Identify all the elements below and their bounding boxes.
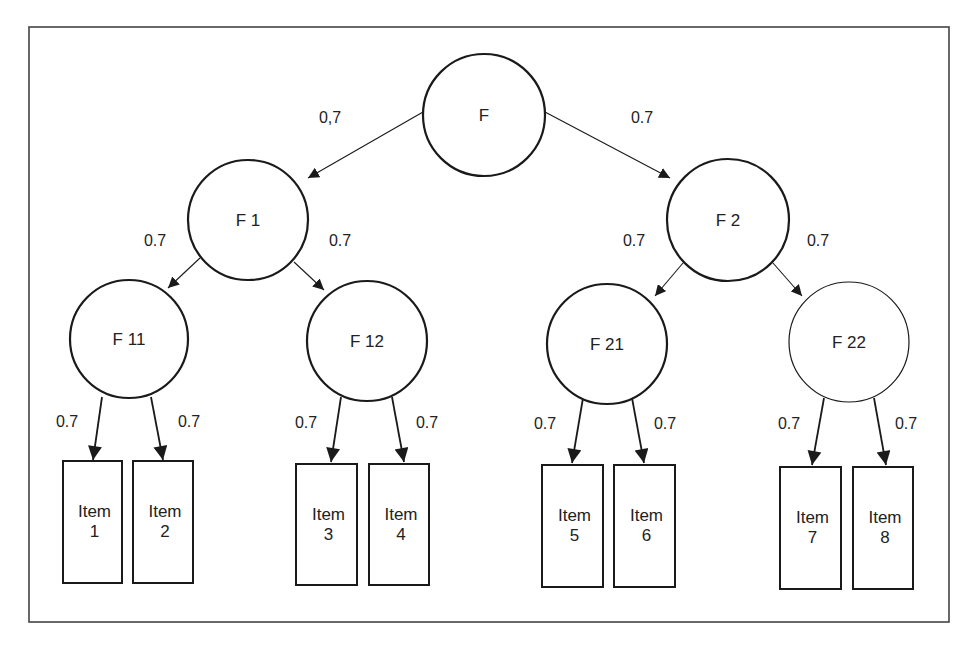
item-label-word: Item [384, 505, 417, 524]
loading-label: 0,7 [319, 109, 341, 126]
item-label-number: 8 [880, 528, 889, 547]
arrow-line [874, 398, 886, 465]
arrow-line [168, 258, 200, 288]
edge-f21-i6: 0.7 [632, 398, 676, 463]
factor-node-f: F [423, 54, 545, 176]
loading-label: 0.7 [623, 232, 645, 249]
loading-label: 0.7 [654, 415, 676, 432]
factor-node-f2: F 2 [667, 159, 789, 281]
edge-f-f2: 0.7 [545, 109, 670, 178]
latent-factor-nodes: FF 1F 2F 11F 12F 21F 22 [70, 54, 909, 404]
item-label-word: Item [868, 508, 901, 527]
loading-label: 0.7 [807, 232, 829, 249]
arrow-line [632, 398, 644, 463]
item-box-8: Item8 [853, 467, 913, 589]
item-label-word: Item [148, 502, 181, 521]
item-label-word: Item [78, 502, 111, 521]
factor-label: F [479, 106, 489, 125]
factor-node-f22: F 22 [789, 282, 909, 402]
edge-f12-i3: 0.7 [295, 397, 341, 462]
loading-label: 0.7 [895, 415, 917, 432]
item-box-3: Item3 [296, 464, 357, 585]
item-box-7: Item7 [780, 467, 841, 589]
loading-label: 0.7 [295, 414, 317, 431]
edge-f12-i4: 0.7 [392, 397, 438, 462]
arrow-line [151, 397, 163, 460]
arrow-line [392, 397, 404, 462]
item-box-4: Item4 [369, 464, 429, 585]
edge-f22-i8: 0.7 [874, 398, 917, 465]
factor-node-f21: F 21 [547, 284, 667, 404]
item-label-number: 2 [160, 522, 169, 541]
loading-label: 0.7 [144, 232, 166, 249]
item-box-5: Item5 [542, 465, 603, 587]
item-label-number: 6 [642, 526, 651, 545]
item-box-2: Item2 [133, 461, 193, 583]
loading-label: 0.7 [416, 414, 438, 431]
loading-label: 0.7 [178, 413, 200, 430]
edge-f-f1: 0,7 [308, 109, 423, 178]
arrow-line [812, 398, 824, 465]
arrow-line [655, 263, 683, 296]
loading-label: 0.7 [631, 109, 653, 126]
loading-label: 0.7 [778, 415, 800, 432]
item-label-number: 4 [396, 525, 405, 544]
factor-tree-diagram: 0,70.70.70.70.70.70.70.70.70.70.70.70.70… [0, 0, 973, 648]
edge-f11-i1: 0.7 [56, 397, 102, 460]
item-label-word: Item [312, 505, 345, 524]
loading-label: 0.7 [534, 415, 556, 432]
arrow-line [93, 397, 102, 460]
item-label-word: Item [558, 506, 591, 525]
factor-label: F 11 [113, 330, 146, 349]
item-label-number: 3 [324, 525, 333, 544]
arrow-line [294, 262, 324, 290]
item-label-number: 5 [570, 526, 579, 545]
factor-label: F 12 [350, 332, 384, 351]
item-box-6: Item6 [614, 465, 675, 587]
item-box-1: Item1 [63, 461, 122, 583]
loading-label: 0.7 [56, 413, 78, 430]
item-label-word: Item [796, 508, 829, 527]
factor-label: F 21 [590, 335, 624, 354]
factor-label: F 1 [236, 211, 261, 230]
arrow-line [331, 397, 341, 462]
factor-node-f12: F 12 [307, 281, 427, 401]
edge-f22-i7: 0.7 [778, 398, 824, 465]
factor-label: F 2 [716, 211, 741, 230]
arrow-line [572, 398, 583, 463]
observed-item-boxes: Item1Item2Item3Item4Item5Item6Item7Item8 [63, 461, 913, 589]
edge-f21-i5: 0.7 [534, 398, 583, 463]
loading-label: 0.7 [329, 232, 351, 249]
item-label-number: 7 [808, 528, 817, 547]
edge-f11-i2: 0.7 [151, 397, 200, 460]
item-label-word: Item [630, 506, 663, 525]
arrow-line [773, 263, 802, 296]
item-label-number: 1 [90, 522, 99, 541]
factor-node-f11: F 11 [70, 280, 188, 398]
factor-label: F 22 [832, 333, 866, 352]
factor-node-f1: F 1 [188, 160, 308, 280]
